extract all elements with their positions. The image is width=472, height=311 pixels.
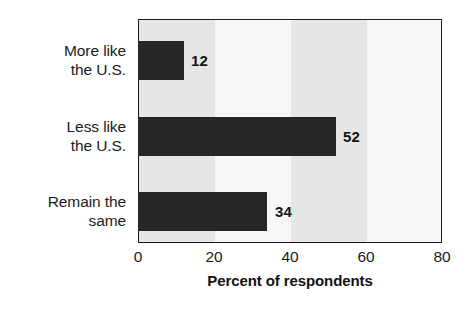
- category-axis-labels: More like the U.S. Less like the U.S. Re…: [0, 19, 132, 243]
- x-axis-title: Percent of respondents: [138, 272, 442, 289]
- x-tick-80: 80: [433, 248, 450, 266]
- background-band-60-80: [367, 20, 442, 242]
- category-label-line2: the U.S.: [0, 60, 126, 79]
- category-label-line2: same: [0, 211, 126, 230]
- category-label-remain-the-same: Remain the same: [0, 192, 126, 230]
- category-label-less-like-us: Less like the U.S.: [0, 117, 126, 155]
- x-tick-20: 20: [205, 248, 222, 266]
- x-tick-40: 40: [281, 248, 298, 266]
- category-label-line2: the U.S.: [0, 136, 126, 155]
- category-label-more-like-us: More like the U.S.: [0, 41, 126, 79]
- background-band-20-40: [215, 20, 291, 242]
- background-band-40-60: [291, 20, 367, 242]
- x-axis-ticks: 0 20 40 60 80: [138, 248, 442, 270]
- x-tick-0: 0: [134, 248, 143, 266]
- x-tick-60: 60: [357, 248, 374, 266]
- bar-chart: More like the U.S. Less like the U.S. Re…: [0, 0, 472, 311]
- category-label-line1: Remain the: [0, 192, 126, 211]
- category-label-line1: More like: [0, 41, 126, 60]
- background-band-0-20: [139, 20, 215, 242]
- plot-area: [138, 19, 442, 243]
- category-label-line1: Less like: [0, 117, 126, 136]
